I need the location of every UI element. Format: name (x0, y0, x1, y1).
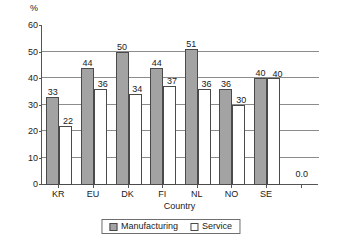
bar-service-kr: 22 (59, 126, 72, 185)
plot-area: 0102030405060 33224436503444375136363040… (41, 25, 318, 185)
x-tick-label-se: SE (249, 188, 284, 200)
bar-value-label: 40 (273, 70, 283, 79)
zero-annotation: 0.0 (295, 170, 308, 179)
legend-label: Manufacturing (121, 222, 178, 231)
bar-manufacturing-eu: 44 (81, 68, 94, 185)
bar-group: 5136 (181, 25, 216, 185)
y-tick-label: 20 (28, 127, 38, 136)
x-axis-labels: KREUDKFINLNOSE (41, 188, 318, 200)
x-tick-label-dk: DK (110, 188, 145, 200)
bar-service-fi: 37 (163, 86, 176, 185)
bar-value-label: 37 (167, 77, 177, 86)
bar-manufacturing-fi: 44 (150, 68, 163, 185)
bar-service-eu: 36 (94, 89, 107, 185)
y-tick-label: 50 (28, 47, 38, 56)
legend-item-manufacturing[interactable]: Manufacturing (109, 222, 178, 231)
bar-value-label: 36 (221, 80, 231, 89)
bar-value-label: 30 (236, 96, 246, 105)
y-tick-label: 40 (28, 74, 38, 83)
x-tick-label-empty (283, 188, 318, 200)
bar-service-dk: 34 (129, 94, 142, 185)
bar-group-empty: 0.0 (284, 25, 319, 185)
bar-manufacturing-dk: 50 (116, 52, 129, 185)
bar-group: 4436 (77, 25, 112, 185)
bar-value-label: 50 (117, 43, 127, 52)
x-tick-label-nl: NL (180, 188, 215, 200)
legend-item-service[interactable]: Service (190, 222, 232, 231)
x-tick-label-fi: FI (145, 188, 180, 200)
bar-manufacturing-nl: 51 (185, 49, 198, 185)
x-tick-label-kr: KR (41, 188, 76, 200)
x-tick-label-eu: EU (76, 188, 111, 200)
bar-value-label: 51 (186, 40, 196, 49)
bar-value-label: 22 (63, 117, 73, 126)
bar-group: 4437 (146, 25, 181, 185)
bar-service-no: 30 (232, 105, 245, 185)
bar-service-se: 40 (267, 78, 280, 185)
bar-group: 3630 (215, 25, 250, 185)
bar-value-label: 34 (132, 85, 142, 94)
bar-value-label: 44 (82, 59, 92, 68)
bar-value-label: 36 (202, 80, 212, 89)
y-tick-label: 60 (28, 21, 38, 30)
y-tick-label: 30 (28, 100, 38, 109)
bar-manufacturing-se: 40 (254, 78, 267, 185)
bar-service-nl: 36 (198, 89, 211, 185)
bar-group: 3322 (42, 25, 77, 185)
chart-legend: ManufacturingService (101, 219, 240, 234)
bar-manufacturing-no: 36 (219, 89, 232, 185)
y-axis-unit-label: % (30, 4, 38, 13)
y-tick-label: 10 (28, 153, 38, 162)
bar-group: 4040 (250, 25, 285, 185)
bar-manufacturing-kr: 33 (46, 97, 59, 185)
y-tick-label: 0 (33, 180, 38, 189)
legend-swatch-icon (109, 223, 117, 231)
bar-value-label: 36 (98, 80, 108, 89)
legend-label: Service (202, 222, 232, 231)
x-axis-title: Country (41, 201, 318, 211)
bar-value-label: 33 (48, 88, 58, 97)
legend-swatch-icon (190, 223, 198, 231)
bar-group: 5034 (111, 25, 146, 185)
x-tick-label-no: NO (214, 188, 249, 200)
bar-value-label: 44 (152, 59, 162, 68)
bar-groups: 33224436503444375136363040400.0 (42, 25, 319, 185)
bar-value-label: 40 (256, 69, 266, 78)
bar-chart: % 0102030405060 332244365034443751363630… (0, 0, 341, 246)
